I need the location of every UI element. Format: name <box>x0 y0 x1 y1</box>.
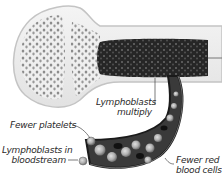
label-fewer-platelets: Fewer platelets <box>10 120 76 130</box>
label-lymphoblasts-bloodstream: Lymphoblasts in bloodstream <box>2 145 66 165</box>
label-fewer-red-blood-cells: Fewer red blood cells <box>176 155 222 175</box>
label-line: Lymphoblasts <box>96 97 152 107</box>
label-line: Lymphoblasts in <box>2 145 66 155</box>
bone-marrow <box>97 39 222 78</box>
label-lymphoblasts-multiply: Lymphoblasts multiply <box>96 97 152 117</box>
label-line: Fewer red <box>176 155 222 165</box>
label-line: blood cells <box>176 165 222 175</box>
label-line: multiply <box>96 107 152 117</box>
blood-vessel <box>79 76 182 168</box>
label-line: bloodstream <box>2 155 66 165</box>
